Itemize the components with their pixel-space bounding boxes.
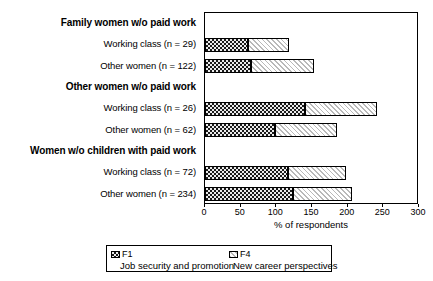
x-tick-label: 100 <box>268 207 283 218</box>
category-bar-label: Other women (n = 234) <box>100 183 196 204</box>
x-axis: 050100150200250300 <box>204 204 418 218</box>
bar-row <box>205 98 417 119</box>
bar-segment-f4 <box>251 59 314 73</box>
bar-segment-f1 <box>205 123 275 137</box>
bar-row <box>205 34 417 55</box>
category-group-label: Family women w/o paid work <box>61 12 196 33</box>
legend-label-f4: F4 <box>240 249 251 259</box>
x-axis-title: % of respondents <box>204 219 418 230</box>
bar-row <box>205 120 417 141</box>
legend-label-f1: F1 <box>122 249 133 259</box>
x-tick-label: 150 <box>303 207 318 218</box>
legend-key-f4: F4 <box>229 249 251 259</box>
bar-segment-f4 <box>248 38 289 52</box>
bars-container <box>205 13 417 203</box>
category-label-column: Family women w/o paid workWorking class … <box>0 12 200 204</box>
bar-segment-f1 <box>205 187 293 201</box>
bar-segment-f1 <box>205 38 248 52</box>
bar-segment-f4 <box>275 123 337 137</box>
x-tick-label: 300 <box>410 207 425 218</box>
plot-area <box>204 12 418 204</box>
category-bar-label: Working class (n = 72) <box>104 161 196 182</box>
legend-swatch-f4-icon <box>229 251 238 258</box>
category-bar-label: Other women (n = 122) <box>100 55 196 76</box>
bar-segment-f4 <box>293 187 352 201</box>
category-bar-label: Working class (n = 29) <box>104 33 196 54</box>
bar-segment-f4 <box>305 102 377 116</box>
bar-segment-f4 <box>288 166 346 180</box>
category-group-label: Other women w/o paid work <box>66 76 196 97</box>
bar-segment-f1 <box>205 59 251 73</box>
x-tick-label: 0 <box>201 207 206 218</box>
chart-figure: Family women w/o paid workWorking class … <box>0 0 433 281</box>
legend-description-f4: New career perspectives <box>233 260 338 271</box>
x-tick-label: 250 <box>375 207 390 218</box>
legend-swatch-f1-icon <box>111 251 120 258</box>
bar-row <box>205 162 417 183</box>
x-tick-label: 50 <box>235 207 245 218</box>
bar-segment-f1 <box>205 102 305 116</box>
bar-row <box>205 56 417 77</box>
legend-key-f1: F1 <box>111 249 133 259</box>
category-bar-label: Other women (n = 62) <box>105 119 196 140</box>
bar-row <box>205 184 417 205</box>
x-tick-label: 200 <box>339 207 354 218</box>
category-bar-label: Working class (n = 26) <box>104 97 196 118</box>
category-group-label: Women w/o children with paid work <box>30 140 196 161</box>
bar-segment-f1 <box>205 166 288 180</box>
legend-description-f1: Job security and promotion <box>120 260 234 271</box>
chart-legend: F1 Job security and promotion F4 New car… <box>106 245 332 272</box>
